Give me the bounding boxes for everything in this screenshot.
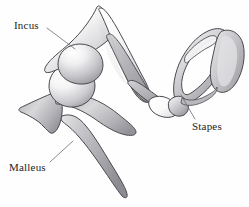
- label-malleus: Malleus: [9, 162, 46, 173]
- ossicles-figure: Incus Malleus Stapes: [0, 0, 249, 207]
- ossicles-illustration: [0, 0, 249, 207]
- label-stapes: Stapes: [192, 121, 222, 132]
- label-incus: Incus: [14, 20, 39, 31]
- incus-articular-head: [58, 44, 103, 84]
- stapes-structure: [168, 29, 244, 117]
- leader-line-malleus: [50, 141, 73, 162]
- leader-line-incus: [47, 28, 75, 49]
